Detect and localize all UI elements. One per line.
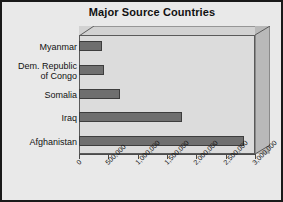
category-label: Somalia — [4, 90, 77, 100]
category-label-line: Myanmar — [4, 42, 77, 52]
chart-title: Major Source Countries — [62, 6, 242, 18]
bar[interactable] — [79, 41, 102, 51]
bar-row — [79, 83, 255, 107]
bar-row — [79, 35, 255, 59]
plot-area-3d — [79, 26, 270, 154]
x-axis-tick — [79, 154, 80, 159]
plot-right-face-shape — [255, 26, 270, 154]
category-label: Dem. Republicof Congo — [4, 61, 77, 81]
bar[interactable] — [79, 89, 120, 99]
category-label: Myanmar — [4, 42, 77, 52]
chart-figure: Major Source Countries MyanmarDem. Repub… — [0, 0, 283, 202]
bar[interactable] — [79, 112, 182, 122]
category-label: Iraq — [4, 113, 77, 123]
bar[interactable] — [79, 65, 104, 75]
bar-series — [79, 35, 255, 154]
category-label: Afghanistan — [4, 137, 77, 147]
category-label-line: Somalia — [4, 90, 77, 100]
category-label-line: Iraq — [4, 113, 77, 123]
category-label-line: Dem. Republic — [4, 61, 77, 71]
category-label-line: Afghanistan — [4, 137, 77, 147]
bar-row — [79, 130, 255, 154]
bar-row — [79, 59, 255, 83]
category-axis-labels: MyanmarDem. Republicof CongoSomaliaIraqA… — [4, 35, 77, 154]
x-axis-tick-label: 0 — [75, 158, 83, 166]
category-label-line: of Congo — [4, 71, 77, 81]
plot-right-face — [255, 26, 270, 154]
bar-row — [79, 106, 255, 130]
bar[interactable] — [79, 136, 244, 146]
